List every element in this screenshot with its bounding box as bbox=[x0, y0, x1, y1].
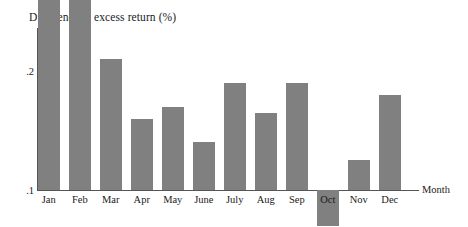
bar bbox=[286, 83, 308, 190]
bar-group: Dec bbox=[379, 0, 401, 227]
bar-group: Aug bbox=[255, 0, 277, 227]
x-axis-tick-label: Nov bbox=[348, 194, 370, 205]
x-axis-tick-label: June bbox=[193, 194, 215, 205]
x-axis-title: Month bbox=[422, 184, 450, 195]
x-axis-tick-label: Dec bbox=[379, 194, 401, 205]
bar bbox=[348, 160, 370, 190]
y-axis-tick-label: .2 bbox=[20, 66, 34, 77]
bar-group: Nov bbox=[348, 0, 370, 227]
bar-group: May bbox=[162, 0, 184, 227]
bar bbox=[162, 107, 184, 190]
bar-group: July bbox=[224, 0, 246, 227]
bar-group: June bbox=[193, 0, 215, 227]
bar bbox=[131, 119, 153, 190]
bar-chart: Difference in excess return (%) .1.2.3.4… bbox=[0, 0, 468, 227]
y-axis-tick-labels: .1.2.3.4.5.6.7.8 bbox=[18, 0, 34, 227]
bar bbox=[224, 83, 246, 190]
plot-area: JanFebMarAprMayJuneJulyAugSepOctNovDec bbox=[38, 0, 411, 227]
bar-group: Feb bbox=[69, 0, 91, 227]
x-axis-tick-label: Jan bbox=[38, 194, 60, 205]
x-axis-tick-label: Feb bbox=[69, 194, 91, 205]
bar-group: Jan bbox=[38, 0, 60, 227]
bar bbox=[379, 95, 401, 190]
bar bbox=[193, 142, 215, 190]
bar-group: Sep bbox=[286, 0, 308, 227]
x-axis-tick-label: Oct bbox=[317, 194, 339, 205]
bar bbox=[69, 0, 91, 190]
bar bbox=[38, 0, 60, 190]
x-axis-tick-label: May bbox=[162, 194, 184, 205]
x-axis-end-tick bbox=[411, 190, 419, 191]
y-axis-tick-label: .1 bbox=[20, 185, 34, 196]
bar-group: Apr bbox=[131, 0, 153, 227]
bar-group: Mar bbox=[100, 0, 122, 227]
x-axis-tick-label: Sep bbox=[286, 194, 308, 205]
bar bbox=[100, 59, 122, 190]
bar bbox=[255, 113, 277, 190]
bar-group: Oct bbox=[317, 0, 339, 227]
x-axis-tick-label: Apr bbox=[131, 194, 153, 205]
x-axis-tick-label: July bbox=[224, 194, 246, 205]
x-axis-tick-label: Aug bbox=[255, 194, 277, 205]
x-axis-tick-label: Mar bbox=[100, 194, 122, 205]
